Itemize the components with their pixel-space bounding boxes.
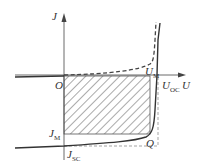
q-point-label: Q	[146, 138, 154, 149]
uoc-label: UOC	[162, 80, 180, 94]
max-power-rectangle	[64, 76, 150, 134]
x-axis-label: U	[182, 80, 190, 91]
jm-label: JM	[49, 128, 60, 142]
dark-curve-left	[15, 76, 64, 77]
x-axis-arrow-icon	[178, 73, 186, 78]
origin-label: O	[55, 80, 63, 91]
jsc-label: JSC	[67, 149, 80, 163]
y-axis-arrow-icon	[62, 13, 67, 22]
y-axis-label: J	[52, 11, 57, 22]
um-label: UM	[145, 66, 159, 80]
dark-curve	[64, 22, 156, 75]
